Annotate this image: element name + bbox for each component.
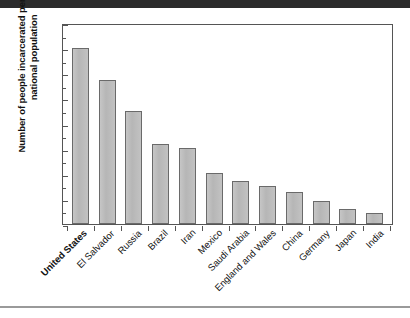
y-tick-mark (63, 100, 68, 101)
y-tick-mark (63, 25, 68, 26)
bar-slot (281, 25, 308, 224)
bar-slot (361, 25, 388, 224)
scan-bottom-rule (0, 306, 410, 308)
bar-slot (147, 25, 174, 224)
bar-united-states[interactable] (72, 48, 89, 224)
x-label-brazil: Brazil (146, 228, 170, 252)
bar-slot (174, 25, 201, 224)
bar-slot (94, 25, 121, 224)
bar-slot (254, 25, 281, 224)
bar-russia[interactable] (125, 111, 142, 224)
y-tick-mark-minor (63, 38, 66, 39)
x-label-india: India (364, 228, 386, 250)
y-axis-title: Number of people incarcerated per 100,00… (16, 0, 39, 158)
bar-england-and-wales[interactable] (259, 186, 276, 224)
y-tick-mark-minor (63, 188, 66, 189)
bar-japan[interactable] (339, 209, 356, 224)
y-tick-mark-minor (63, 138, 66, 139)
plot-area: 0100200300400500600700800 (62, 24, 393, 225)
bar-slot (121, 25, 148, 224)
y-tick-mark (63, 201, 68, 202)
y-tick-mark (63, 50, 68, 51)
bar-saudi-arabia[interactable] (232, 181, 249, 224)
y-tick-mark (63, 126, 68, 127)
scan-top-band (0, 0, 410, 8)
x-label-iran: Iran (179, 228, 198, 247)
incarceration-bar-chart-figure: Number of people incarcerated per 100,00… (0, 0, 410, 318)
x-label-japan: Japan (333, 228, 358, 253)
bar-mexico[interactable] (206, 173, 223, 225)
y-tick-mark (63, 176, 68, 177)
x-axis-category-labels: United StatesEl SalvadorRussiaBrazilIran… (62, 226, 393, 306)
y-tick-mark (63, 151, 68, 152)
x-label-russia: Russia (116, 228, 144, 256)
bar-slot (308, 25, 335, 224)
bar-india[interactable] (366, 213, 383, 224)
bar-brazil[interactable] (152, 144, 169, 224)
bar-slot (335, 25, 362, 224)
bar-slot (228, 25, 255, 224)
y-tick-mark-minor (63, 63, 66, 64)
bar-series (63, 25, 392, 224)
y-tick-mark-minor (63, 163, 66, 164)
bar-germany[interactable] (313, 201, 330, 224)
y-tick-mark-minor (63, 113, 66, 114)
bar-slot (67, 25, 94, 224)
bar-china[interactable] (286, 192, 303, 224)
bar-slot (201, 25, 228, 224)
y-tick-mark (63, 75, 68, 76)
bar-iran[interactable] (179, 148, 196, 224)
y-tick-mark-minor (63, 213, 66, 214)
bar-el-salvador[interactable] (99, 80, 116, 224)
y-tick-mark-minor (63, 88, 66, 89)
